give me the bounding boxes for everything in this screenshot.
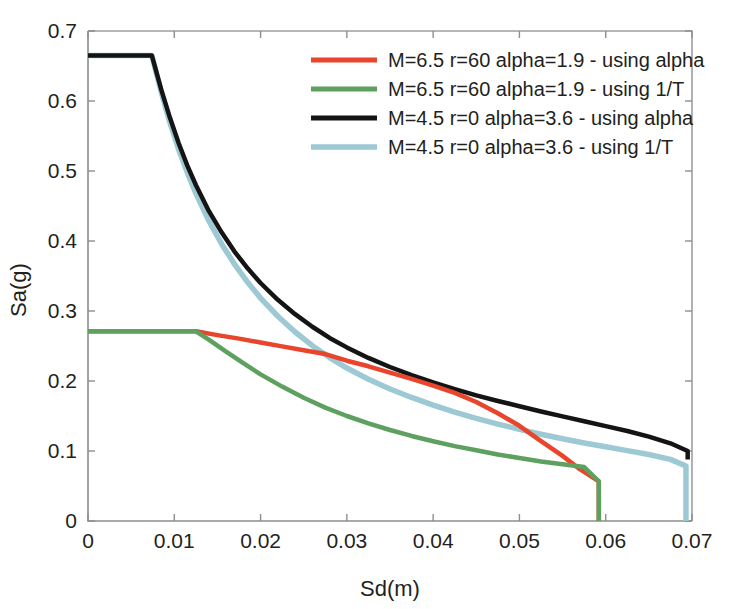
y-tick-label: 0.1 bbox=[48, 439, 77, 462]
chart-legend: M=6.5 r=60 alpha=1.9 - using alphaM=6.5 … bbox=[311, 49, 705, 158]
x-tick-label: 0.06 bbox=[585, 529, 626, 552]
legend-label: M=6.5 r=60 alpha=1.9 - using alpha bbox=[388, 49, 705, 71]
x-tick-label: 0.01 bbox=[154, 529, 195, 552]
y-tick-label: 0.7 bbox=[48, 19, 77, 42]
x-tick-label: 0.07 bbox=[672, 529, 713, 552]
legend-label: M=6.5 r=60 alpha=1.9 - using 1/T bbox=[388, 78, 684, 100]
y-tick-label: 0.3 bbox=[48, 299, 77, 322]
x-tick-label: 0.03 bbox=[326, 529, 367, 552]
capacity-spectrum-plot: 00.010.020.030.040.050.060.07 00.10.20.3… bbox=[0, 0, 741, 609]
chart-figure: 00.010.020.030.040.050.060.07 00.10.20.3… bbox=[0, 0, 741, 609]
x-tick-label: 0.02 bbox=[240, 529, 281, 552]
y-tick-label: 0.4 bbox=[48, 229, 78, 252]
legend-label: M=4.5 r=0 alpha=3.6 - using 1/T bbox=[388, 136, 673, 158]
y-tick-label: 0 bbox=[65, 509, 77, 532]
x-tick-label: 0 bbox=[82, 529, 94, 552]
y-tick-label: 0.2 bbox=[48, 369, 77, 392]
y-axis-title: Sa(g) bbox=[6, 263, 31, 317]
legend-label: M=4.5 r=0 alpha=3.6 - using alpha bbox=[388, 107, 694, 129]
series-line-1 bbox=[88, 331, 599, 521]
y-tick-label: 0.5 bbox=[48, 159, 77, 182]
x-axis-title: Sd(m) bbox=[360, 576, 420, 601]
y-tick-label: 0.6 bbox=[48, 89, 77, 112]
x-tick-label: 0.05 bbox=[499, 529, 540, 552]
x-tick-label: 0.04 bbox=[413, 529, 454, 552]
